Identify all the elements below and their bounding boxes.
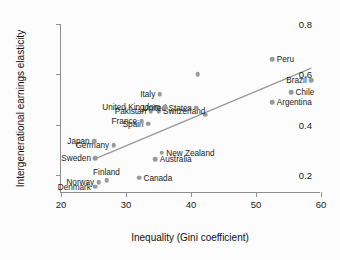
data-point-label: Canada [144, 173, 173, 182]
data-point-label: France [112, 117, 137, 126]
data-point[interactable] [270, 57, 275, 62]
data-point-label: Finland [93, 168, 120, 177]
data-point[interactable] [159, 150, 164, 155]
data-point[interactable] [153, 157, 158, 162]
data-point[interactable] [163, 105, 168, 110]
data-point[interactable] [194, 105, 199, 110]
y-tick [56, 125, 61, 126]
data-point-label: Brazil [286, 75, 306, 84]
data-point-label: Norway [66, 178, 94, 187]
data-point-label: Peru [277, 55, 294, 64]
y-tick-label: 0.8 [299, 19, 312, 30]
x-tick [126, 192, 127, 197]
y-tick-label: 0.2 [299, 170, 312, 181]
x-tick [61, 192, 62, 197]
data-point[interactable] [93, 156, 98, 161]
data-point[interactable] [104, 178, 109, 183]
x-tick [256, 192, 257, 197]
data-point[interactable] [289, 90, 294, 95]
data-point[interactable] [195, 72, 200, 77]
y-tick [56, 74, 61, 75]
data-point-label: United Kingdom [102, 103, 160, 112]
data-point[interactable] [111, 143, 116, 148]
data-point[interactable] [92, 139, 97, 144]
y-tick-label: 0.4 [299, 119, 312, 130]
data-point[interactable] [137, 176, 142, 181]
y-tick [56, 24, 61, 25]
data-point-label: Chile [296, 88, 315, 97]
data-point[interactable] [158, 92, 163, 97]
data-point[interactable] [146, 121, 151, 126]
data-point[interactable] [139, 119, 144, 124]
chart-figure: Intergenerational earnings elasticity In… [0, 0, 340, 260]
x-tick-label: 50 [251, 199, 262, 210]
x-tick-label: 40 [186, 199, 197, 210]
data-point[interactable] [96, 180, 101, 185]
x-tick-label: 30 [121, 199, 132, 210]
x-tick [321, 192, 322, 197]
y-axis-title: Intergenerational earnings elasticity [14, 24, 27, 193]
data-point[interactable] [270, 100, 275, 105]
x-tick-label: 60 [316, 199, 327, 210]
data-point-label: New Zealand [166, 148, 214, 157]
y-tick [56, 175, 61, 176]
x-tick [191, 192, 192, 197]
data-point-label: Argentina [277, 98, 312, 107]
x-tick-label: 20 [56, 199, 67, 210]
x-axis-title: Inequality (Gini coefficient) [60, 232, 320, 243]
data-point-label: Japan [67, 137, 89, 146]
plot-area: 0.20.40.60.82030405060DenmarkNorwayFinla… [60, 24, 320, 193]
data-point-label: Italy [140, 90, 155, 99]
data-point[interactable] [309, 78, 314, 83]
data-point-label: Sweden [61, 154, 91, 163]
